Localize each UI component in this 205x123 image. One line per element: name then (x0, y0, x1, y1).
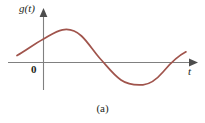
waveform-curve (17, 29, 186, 85)
origin-label-text: 0 (31, 63, 37, 75)
origin-label: 0 (31, 64, 37, 75)
figure-panel-a: g(t) 0 t (a) (0, 0, 205, 123)
y-axis-label: g(t) (19, 3, 35, 14)
figure-caption-text: (a) (96, 102, 108, 114)
figure-caption: (a) (0, 103, 205, 114)
y-axis-label-text: g(t) (19, 2, 35, 14)
x-axis-label: t (188, 66, 191, 77)
x-axis-label-text: t (188, 65, 191, 77)
y-axis-arrow-icon (40, 8, 48, 17)
